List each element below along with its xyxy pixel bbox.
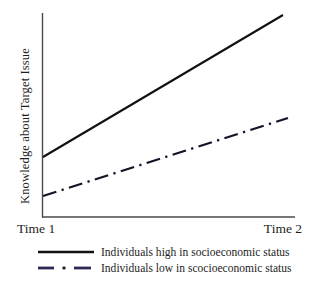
series-line-low-ses — [43, 118, 288, 196]
solid-line-swatch — [38, 246, 94, 258]
chart-legend: Individuals high in socioeconomic status… — [0, 243, 311, 287]
plot-canvas — [0, 0, 311, 240]
legend-label-high-ses: Individuals high in socioeconomic status — [101, 245, 290, 259]
legend-label-low-ses: Individuals low in scocioeconomic status — [101, 261, 292, 275]
x-tick-label-time-1: Time 1 — [17, 220, 55, 237]
series-line-high-ses — [43, 15, 283, 157]
legend-item-low-ses: Individuals low in scocioeconomic status — [0, 260, 311, 276]
knowledge-gap-chart: Knowledge about Target Issue Time 1 Time… — [0, 0, 311, 287]
dash-dot-line-swatch — [38, 262, 94, 274]
y-axis-title: Knowledge about Target Issue — [14, 21, 36, 231]
plot-area: Knowledge about Target Issue Time 1 Time… — [0, 0, 311, 240]
legend-item-high-ses: Individuals high in socioeconomic status — [0, 244, 311, 260]
x-tick-label-time-2: Time 2 — [246, 220, 302, 237]
axis-lines — [42, 13, 295, 218]
